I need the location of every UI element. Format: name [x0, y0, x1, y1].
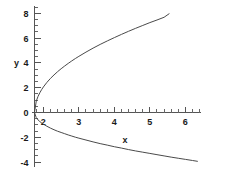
y-tick-label: 4: [23, 58, 28, 68]
y-tick-label: 6: [23, 34, 28, 44]
x-axis-label: x: [123, 135, 128, 145]
y-tick-label: 0: [23, 108, 28, 118]
chart-figure: 23456 -4-202468 x y: [0, 0, 232, 177]
x-axis-minor-ticks: [36, 109, 199, 113]
x-tick-label: 5: [147, 117, 152, 127]
curve-group: [35, 14, 198, 162]
y-axis-minor-ticks: [35, 7, 39, 156]
y-tick-label: -2: [20, 133, 28, 143]
y-tick-label: 2: [23, 83, 28, 93]
x-tick-label: 3: [76, 117, 81, 127]
curve-upper-branch: [35, 14, 170, 113]
y-tick-label: -4: [20, 158, 28, 168]
x-tick-label: 4: [112, 117, 117, 127]
plot-canvas: 23456 -4-202468 x y: [0, 0, 232, 177]
axes-group: [32, 6, 202, 167]
y-axis-label: y: [14, 58, 19, 68]
y-axis-tick-labels: -4-202468: [20, 9, 28, 168]
y-tick-label: 8: [23, 9, 28, 19]
x-axis-tick-labels: 23456: [41, 117, 188, 127]
x-tick-label: 6: [183, 117, 188, 127]
y-axis-major-ticks: [35, 13, 41, 162]
